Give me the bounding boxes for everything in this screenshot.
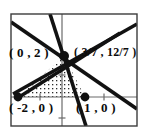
point-label-minus2-0: ( -2 , 0 ) [9, 101, 53, 114]
vertex-marker-top [59, 51, 69, 61]
graph-figure: ( 0 , 2 ) ( 3/7 , 12/7 ) ( -2 , 0 ) ( 1 … [0, 0, 148, 134]
point-label-0-2: ( 0 , 2 ) [9, 46, 49, 59]
point-label-3-7-12-7: ( 3/7 , 12/7 ) [74, 46, 136, 58]
point-label-1-0: ( 1 , 0 ) [76, 101, 116, 114]
